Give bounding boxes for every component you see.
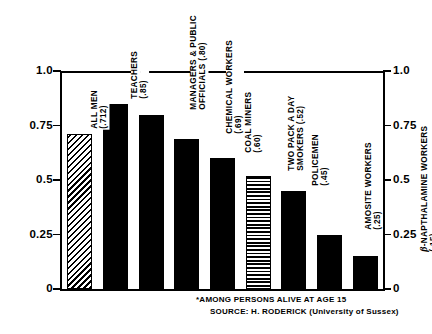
bar-label-naphthalamine-workers: β-NAPTHALAMINE WORKERS(.15) — [419, 124, 432, 252]
axis-label-left-1.0: 1.0 — [36, 65, 53, 77]
bar-policemen[interactable] — [281, 191, 306, 289]
bar-teachers[interactable] — [103, 104, 128, 289]
axis-tick-left-1.0 — [53, 70, 61, 72]
bar-label-line: OFFICIALS (.80) — [199, 14, 208, 111]
bar-label-amosite-workers: AMOSITE WORKERS(.25) — [365, 141, 383, 231]
plot-area: ALL MEN(.712)TEACHERS(.85)MANAGERS & PUB… — [62, 71, 383, 289]
bar-smokers[interactable] — [246, 176, 271, 289]
axis-label-left-0.25: 0.25 — [29, 229, 53, 241]
bar-label-coal-miners: COAL MINERS(.60) — [245, 91, 263, 154]
axis-tick-left-0.75 — [53, 125, 61, 127]
bar-label-managers: MANAGERS & PUBLICOFFICIALS (.80) — [191, 14, 209, 111]
axis-tick-right-0.25 — [383, 234, 391, 236]
axis-tick-right-0.75 — [383, 125, 391, 127]
axis-tick-left-0.25 — [53, 234, 61, 236]
bar-label-line: SMOKERS (.52) — [297, 94, 306, 171]
bar-label-line: (.45) — [321, 133, 330, 187]
bar-label-chemical-workers: CHEMICAL WORKERS(.69) — [226, 39, 244, 135]
bottom-axis-line — [60, 289, 385, 291]
bar-label-line: (.69) — [235, 39, 244, 135]
axis-tick-right-0 — [383, 288, 391, 290]
axis-label-right-0.75: 0.75 — [393, 120, 417, 132]
bar-naphthalamine-workers[interactable] — [353, 256, 378, 289]
bar-slot-managers: MANAGERS & PUBLICOFFICIALS (.80) — [139, 71, 164, 289]
axis-label-left-0: 0 — [46, 283, 53, 295]
bar-label-line: (.60) — [254, 91, 263, 154]
axis-label-right-1.0: 1.0 — [393, 65, 410, 77]
footnote-alive-at-age-15: *AMONG PERSONS ALIVE AT AGE 15 — [196, 294, 399, 306]
bar-label-all-men: ALL MEN(.712) — [91, 89, 109, 130]
axis-label-left-0.5: 0.5 — [36, 174, 53, 186]
bar-label-line: (.25) — [374, 141, 383, 231]
chart-container: 1.01.00.750.750.50.50.250.2500 ALL MEN(.… — [0, 0, 432, 334]
bar-all-men[interactable] — [67, 134, 92, 289]
bar-label-line: (.85) — [140, 50, 149, 100]
bar-slot-all-men: ALL MEN(.712) — [67, 71, 92, 289]
axis-tick-right-0.5 — [383, 179, 391, 181]
bar-chemical-workers[interactable] — [174, 139, 199, 289]
axis-tick-left-0 — [53, 288, 61, 290]
axis-tick-left-0.5 — [53, 179, 61, 181]
footnote-source: SOURCE: H. RODERICK (University of Susse… — [196, 306, 399, 318]
bar-label-smokers: TWO PACK A DAYSMOKERS (.52) — [288, 94, 306, 171]
bar-amosite-workers[interactable] — [317, 235, 342, 290]
bar-managers[interactable] — [139, 115, 164, 289]
axis-label-left-0.75: 0.75 — [29, 120, 53, 132]
bar-label-policemen: POLICEMEN(.45) — [312, 133, 330, 187]
axis-label-right-0.5: 0.5 — [393, 174, 410, 186]
bar-label-line: (.712) — [100, 89, 109, 130]
axis-label-right-0: 0 — [393, 283, 400, 295]
footnotes: *AMONG PERSONS ALIVE AT AGE 15 SOURCE: H… — [196, 294, 399, 319]
bar-coal-miners[interactable] — [210, 158, 235, 289]
bar-label-teachers: TEACHERS(.85) — [132, 50, 150, 100]
axis-label-right-0.25: 0.25 — [393, 229, 417, 241]
beta-glyph: β — [418, 246, 429, 251]
axis-tick-right-1.0 — [383, 70, 391, 72]
